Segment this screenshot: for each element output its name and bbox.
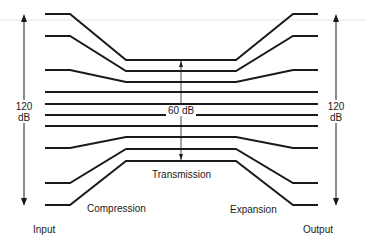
input-label: Input [33,224,55,235]
left-scale-label: 120 dB [10,101,38,123]
right-scale-label: 120 dB [322,101,350,123]
signal-line-10 [45,161,318,205]
signal-line-8 [45,137,318,148]
expansion-label: Expansion [230,204,277,215]
output-label: Output [303,224,333,235]
right-scale-value: 120 [322,101,350,112]
transmission-label: Transmission [152,169,211,180]
signal-line-1 [45,14,318,60]
right-scale-unit: dB [322,112,350,123]
compression-label: Compression [87,203,146,214]
center-range-label: 60 dB [166,105,196,116]
left-scale-unit: dB [10,112,38,123]
left-scale-value: 120 [10,101,38,112]
dynamic-range-diagram [0,0,366,242]
